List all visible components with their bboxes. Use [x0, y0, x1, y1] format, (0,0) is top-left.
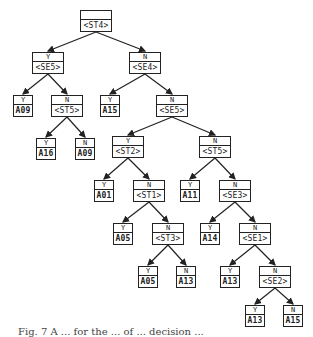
- branch-label: N: [52, 96, 82, 105]
- tree-test-node: N<SE1>: [239, 223, 271, 245]
- tree-test-node: N<SE4>: [129, 52, 161, 74]
- tree-edge-arrow: [235, 202, 255, 222]
- node-value: A15: [284, 315, 302, 326]
- tree-edge-arrow: [275, 288, 293, 304]
- tree-test-node: <ST4>: [80, 10, 112, 32]
- tree-edge-arrow: [110, 74, 145, 94]
- node-value: <ST3>: [153, 233, 183, 244]
- tree-leaf-node: YA13: [220, 266, 240, 288]
- tree-edge-arrow: [145, 74, 172, 94]
- tree-edge-arrow: [104, 158, 128, 179]
- tree-edge-arrow: [172, 117, 215, 135]
- tree-leaf-node: NA09: [75, 138, 95, 160]
- tree-leaf-node: NA15: [283, 305, 303, 327]
- branch-label: Y: [114, 224, 132, 233]
- node-value: A05: [114, 233, 132, 244]
- tree-leaf-node: YA01: [94, 180, 114, 202]
- branch-label: Y: [37, 139, 55, 148]
- branch-label: Y: [201, 224, 219, 233]
- tree-test-node: N<ST3>: [152, 223, 184, 245]
- branch-label: Y: [14, 96, 32, 105]
- node-value: <SE2>: [260, 276, 290, 287]
- tree-test-node: N<SE3>: [219, 180, 251, 202]
- tree-edge-arrow: [255, 245, 275, 265]
- node-value: <SE4>: [130, 62, 160, 73]
- tree-edge-arrow: [46, 117, 67, 137]
- tree-edge-arrow: [190, 158, 215, 179]
- tree-edge-arrow: [168, 245, 186, 265]
- tree-edge-arrow: [96, 32, 145, 51]
- tree-edge-arrow: [128, 158, 149, 179]
- tree-leaf-node: YA16: [36, 138, 56, 160]
- branch-label: N: [200, 137, 230, 146]
- figure-caption: Fig. 7 A ... for the ... of ... decision…: [18, 326, 204, 337]
- node-value: <SE5>: [33, 62, 63, 73]
- branch-label: Y: [95, 181, 113, 190]
- branch-label: Y: [246, 306, 264, 315]
- node-value: <ST5>: [200, 146, 230, 157]
- node-value: <ST2>: [113, 146, 143, 157]
- node-value: A13: [177, 276, 195, 287]
- branch-label: N: [130, 53, 160, 62]
- tree-test-node: N<SE2>: [259, 266, 291, 288]
- node-value: A16: [37, 148, 55, 159]
- branch-label: N: [220, 181, 250, 190]
- tree-edge-arrow: [48, 32, 96, 51]
- branch-label: [81, 11, 111, 20]
- tree-edge-arrow: [230, 245, 255, 265]
- node-value: A11: [181, 190, 199, 201]
- branch-label: Y: [221, 267, 239, 276]
- tree-test-node: N<ST5>: [51, 95, 83, 117]
- tree-edge-arrow: [123, 202, 149, 222]
- node-value: A15: [101, 105, 119, 116]
- tree-edge-arrow: [148, 245, 168, 265]
- branch-label: Y: [101, 96, 119, 105]
- tree-edge-arrow: [210, 202, 235, 222]
- tree-leaf-node: YA14: [200, 223, 220, 245]
- node-value: A13: [221, 276, 239, 287]
- tree-edge-arrow: [255, 288, 275, 304]
- node-value: <SE5>: [157, 105, 187, 116]
- node-value: A09: [76, 148, 94, 159]
- node-value: <SE3>: [220, 190, 250, 201]
- branch-label: Y: [181, 181, 199, 190]
- node-value: A13: [246, 315, 264, 326]
- branch-label: N: [240, 224, 270, 233]
- tree-test-node: N<ST5>: [199, 136, 231, 158]
- tree-leaf-node: NA13: [176, 266, 196, 288]
- node-value: A09: [14, 105, 32, 116]
- tree-test-node: N<ST1>: [133, 180, 165, 202]
- branch-label: Y: [139, 267, 157, 276]
- tree-edge-arrow: [67, 117, 85, 137]
- branch-label: Y: [113, 137, 143, 146]
- branch-label: N: [157, 96, 187, 105]
- tree-edge-arrow: [128, 117, 172, 135]
- node-value: A14: [201, 233, 219, 244]
- branch-label: N: [260, 267, 290, 276]
- branch-label: N: [284, 306, 302, 315]
- tree-edge-arrow: [149, 202, 168, 222]
- tree-leaf-node: YA15: [100, 95, 120, 117]
- tree-leaf-node: YA09: [13, 95, 33, 117]
- node-value: A05: [139, 276, 157, 287]
- tree-leaf-node: YA05: [113, 223, 133, 245]
- branch-label: N: [76, 139, 94, 148]
- branch-label: Y: [33, 53, 63, 62]
- node-value: <ST4>: [81, 20, 111, 31]
- branch-label: N: [153, 224, 183, 233]
- tree-leaf-node: YA05: [138, 266, 158, 288]
- node-value: <SE1>: [240, 233, 270, 244]
- tree-test-node: N<SE5>: [156, 95, 188, 117]
- branch-label: N: [177, 267, 195, 276]
- node-value: <ST1>: [134, 190, 164, 201]
- tree-edge-arrow: [215, 158, 235, 179]
- tree-leaf-node: YA11: [180, 180, 200, 202]
- tree-edge-arrow: [23, 74, 48, 94]
- node-value: <ST5>: [52, 105, 82, 116]
- branch-label: N: [134, 181, 164, 190]
- tree-test-node: Y<SE5>: [32, 52, 64, 74]
- node-value: A01: [95, 190, 113, 201]
- tree-edge-arrow: [48, 74, 67, 94]
- tree-leaf-node: YA13: [245, 305, 265, 327]
- tree-test-node: Y<ST2>: [112, 136, 144, 158]
